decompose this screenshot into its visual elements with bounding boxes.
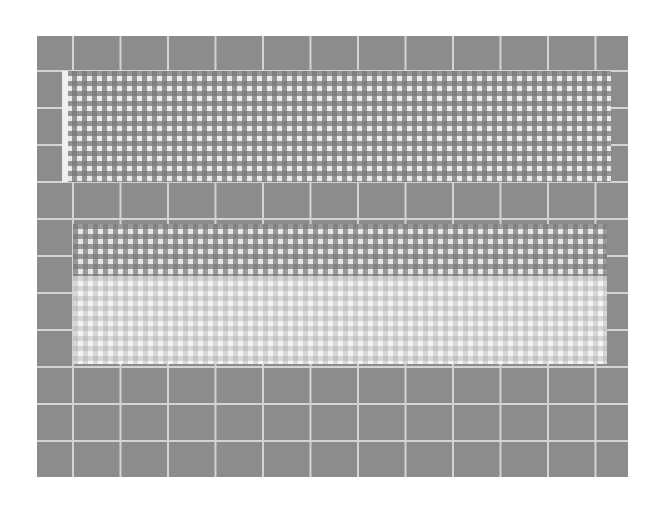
bottom-panel-dark-band (73, 224, 607, 276)
top-panel-left-edge (62, 71, 68, 182)
top-checkered-panel (62, 71, 611, 182)
bottom-checkered-panel (73, 224, 607, 364)
bottom-panel-light-band (73, 276, 607, 364)
